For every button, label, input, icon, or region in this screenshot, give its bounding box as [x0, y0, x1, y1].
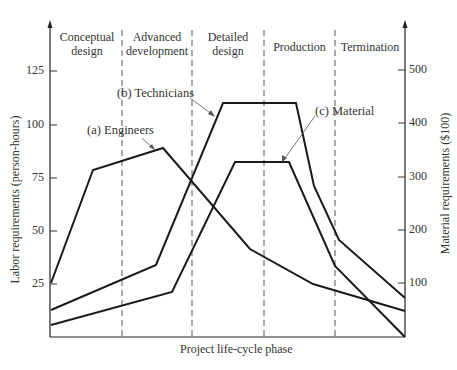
left-tick-label: 75: [32, 170, 44, 185]
phase-line1: Conceptual: [52, 30, 122, 44]
right-tick-label: 200: [409, 222, 427, 237]
series-label-material: (c) Material: [315, 104, 374, 119]
left-tick-label: 125: [26, 63, 44, 78]
phase-line1: Production: [264, 40, 335, 54]
phase-label-advanced-development: Advanced development: [122, 30, 192, 58]
phase-line1: Advanced: [122, 30, 192, 44]
right-tick-label: 400: [409, 115, 427, 130]
right-tick-label: 500: [409, 62, 427, 77]
left-tick-label: 100: [26, 117, 44, 132]
right-ticks: [398, 70, 405, 283]
phase-line1: Termination: [335, 40, 405, 54]
right-tick-label: 100: [409, 275, 427, 290]
annotation-arrowheads: [149, 110, 287, 162]
left-tick-label: 25: [32, 276, 44, 291]
left-ticks: [50, 71, 57, 284]
left-y-axis-title: Labor requirements (person-hours): [8, 105, 23, 295]
right-y-axis-title: Material requirements ($100): [438, 94, 453, 274]
phase-line1: Detailed: [192, 30, 264, 44]
annotation-leaders: [142, 98, 315, 161]
series-label-engineers: (a) Engineers: [87, 123, 154, 138]
left-axis-arrow-icon: [48, 20, 53, 28]
phase-line2: development: [122, 44, 192, 58]
series-label-technicians: (b) Technicians: [117, 86, 194, 101]
phase-line2: design: [52, 44, 122, 58]
right-axis-arrow-icon: [403, 20, 408, 28]
left-tick-label: 50: [32, 223, 44, 238]
phase-label-detailed-design: Detailed design: [192, 30, 264, 58]
phase-label-termination: Termination: [335, 40, 405, 54]
series-material-line: [51, 162, 405, 337]
phase-label-production: Production: [264, 40, 335, 54]
x-axis-title: Project life-cycle phase: [180, 342, 293, 357]
phase-line2: design: [192, 44, 264, 58]
phase-dividers: [122, 30, 335, 337]
right-tick-label: 300: [409, 169, 427, 184]
phase-label-conceptual-design: Conceptual design: [52, 30, 122, 58]
